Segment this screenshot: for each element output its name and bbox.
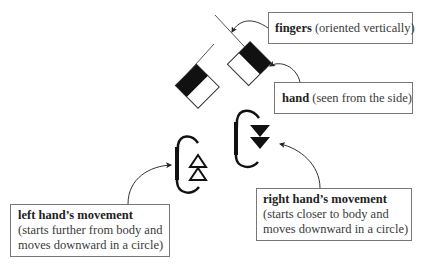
- fingers-label: fingers (oriented vertically): [268, 12, 413, 44]
- left-movement-desc-line1: (starts further from body and: [18, 223, 169, 238]
- left-movement-symbol: [177, 136, 206, 192]
- right-movement-title: right hand’s movement: [263, 192, 387, 206]
- filled-down-triangle-icon: [250, 137, 270, 149]
- right-movement-desc-line1: (starts closer to body and: [263, 207, 411, 222]
- left-movement-desc-line2: moves downward in a circle): [18, 238, 169, 253]
- right-palm-icon: [227, 42, 271, 86]
- fingers-label-title: fingers: [275, 21, 312, 35]
- left-movement-label: left hand’s movement (starts further fro…: [10, 204, 170, 257]
- left-movement-callout-arrow: [128, 165, 171, 204]
- right-movement-desc-line2: moves downward in a circle): [263, 222, 411, 237]
- hollow-up-triangle-icon: [190, 168, 206, 180]
- left-hand-symbol: [175, 44, 219, 108]
- left-movement-title: left hand’s movement: [18, 208, 133, 222]
- right-hand-symbol: [215, 15, 271, 86]
- left-palm-icon: [175, 64, 219, 108]
- hand-label-desc: (seen from the side): [309, 91, 412, 105]
- hollow-up-triangle-icon: [190, 155, 206, 167]
- hand-label: hand (seen from the side): [274, 82, 413, 114]
- hand-callout-arrow: [270, 64, 300, 82]
- filled-down-triangle-icon: [250, 125, 270, 137]
- right-movement-label: right hand’s movement (starts closer to …: [256, 188, 412, 241]
- right-movement-symbol: [236, 111, 270, 167]
- hand-label-title: hand: [282, 91, 309, 105]
- fingers-callout-arrow: [232, 21, 268, 32]
- fingers-label-desc: (oriented vertically): [312, 21, 415, 35]
- right-movement-callout-arrow: [280, 144, 320, 188]
